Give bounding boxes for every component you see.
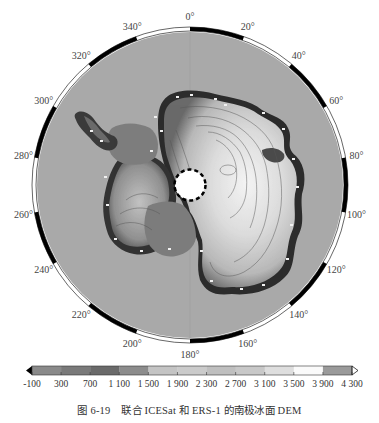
longitude-label: 240° xyxy=(34,264,53,275)
colorbar-swatch xyxy=(207,366,236,375)
colorbar-swatch xyxy=(61,366,90,375)
longitude-label: 260° xyxy=(14,209,33,220)
colorbar-swatch xyxy=(323,366,352,375)
colorbar-tick-label: 3 100 xyxy=(254,379,276,389)
colorbar-tick-label: 3 500 xyxy=(283,379,305,389)
longitude-label: 200° xyxy=(123,338,142,349)
colorbar-max-extend-icon xyxy=(352,366,358,375)
longitude-label: 20° xyxy=(241,21,255,32)
colorbar-tick-label: 4 300 xyxy=(341,379,363,389)
longitude-label: 280° xyxy=(14,150,33,161)
colorbar-swatch xyxy=(236,366,265,375)
colorbar-tick-label: 2 300 xyxy=(196,379,218,389)
colorbar-swatch xyxy=(177,366,206,375)
longitude-label: 100° xyxy=(347,209,366,220)
colorbar-tick-label: 1 500 xyxy=(138,379,160,389)
figure-caption: 图 6-19 联合 ICESat 和 ERS-1 的南极冰面 DEM xyxy=(0,402,379,417)
colorbar-min-extend-icon xyxy=(26,366,32,375)
colorbar-tick-label: 300 xyxy=(54,379,69,389)
longitude-label: 180° xyxy=(181,349,200,360)
caption-number: 图 6-19 xyxy=(77,405,110,416)
longitude-label: 140° xyxy=(289,309,308,320)
longitude-label: 60° xyxy=(329,95,343,106)
longitude-label: 160° xyxy=(238,338,257,349)
longitude-label: 320° xyxy=(72,50,91,61)
colorbar-tick-label: 1 900 xyxy=(167,379,189,389)
colorbar-tick-label: 3 900 xyxy=(312,379,334,389)
elevation-colorbar: -1003007001 1001 5001 9002 3002 7003 100… xyxy=(23,366,363,389)
longitude-label: 120° xyxy=(327,264,346,275)
colorbar-swatch xyxy=(294,366,323,375)
colorbar-tick-label: 700 xyxy=(83,379,98,389)
longitude-label: 340° xyxy=(123,21,142,32)
caption-text: 联合 ICESat 和 ERS-1 的南极冰面 DEM xyxy=(121,405,301,416)
colorbar-swatch xyxy=(90,366,119,375)
antarctic-dem-map: 0°20°40°60°80°100°120°140°160°180°200°22… xyxy=(0,0,379,423)
longitude-label: 300° xyxy=(34,95,53,106)
colorbar-swatch xyxy=(119,366,148,375)
colorbar-tick-label: -100 xyxy=(23,379,41,389)
colorbar-swatch xyxy=(32,366,61,375)
colorbar-swatch xyxy=(148,366,177,375)
colorbar-tick-label: 2 700 xyxy=(225,379,247,389)
longitude-label: 40° xyxy=(292,50,306,61)
colorbar-tick-label: 1 100 xyxy=(109,379,131,389)
colorbar-swatch xyxy=(265,366,294,375)
longitude-label: 80° xyxy=(349,150,363,161)
longitude-label: 0° xyxy=(186,11,195,22)
longitude-label: 220° xyxy=(72,309,91,320)
